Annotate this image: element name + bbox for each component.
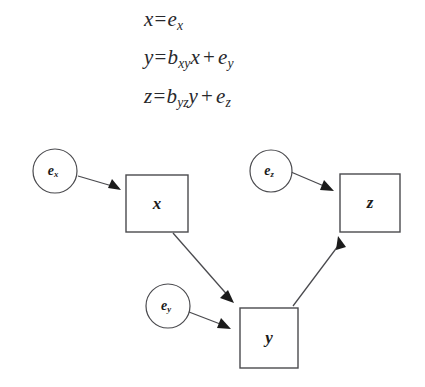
equation-y-coef-multiplier: x bbox=[190, 45, 200, 69]
edge-ez-to-z bbox=[291, 172, 334, 191]
node-z-label: z bbox=[366, 193, 374, 212]
node-error-ex[interactable]: ex bbox=[33, 149, 77, 193]
equation-z-plus: + bbox=[198, 84, 216, 108]
node-z[interactable]: z bbox=[340, 174, 400, 232]
equation-y-operator: = bbox=[154, 45, 168, 69]
equation-z-error-sub: z bbox=[226, 95, 231, 110]
edge-y-to-z bbox=[293, 236, 346, 306]
equation-y-coef-base: b bbox=[168, 45, 179, 69]
edge-ex-to-x bbox=[78, 176, 121, 190]
node-error-ey[interactable]: ey bbox=[146, 284, 190, 328]
equation-x-operator: = bbox=[154, 7, 168, 31]
node-x[interactable]: x bbox=[126, 175, 188, 232]
equation-x-term-sub: x bbox=[177, 18, 183, 33]
equation-y-error-sub: y bbox=[228, 56, 234, 71]
equation-y-lhs: y bbox=[144, 45, 154, 69]
path-diagram: x z y ex ez bbox=[0, 128, 425, 387]
equation-y: y=bxyx+ey bbox=[144, 45, 234, 72]
equation-z: z=byzy+ez bbox=[144, 84, 231, 111]
node-error-ey-sub: y bbox=[166, 304, 171, 314]
equation-z-operator: = bbox=[152, 84, 166, 108]
equations-block: x=ex y=bxyx+ey z=byzy+ez bbox=[0, 0, 425, 128]
equation-y-coef-sub: xy bbox=[178, 56, 190, 71]
equation-x-term-base: e bbox=[168, 7, 178, 31]
equation-y-error-base: e bbox=[218, 45, 228, 69]
node-error-ex-sub: x bbox=[53, 169, 59, 179]
equation-z-coef-multiplier: y bbox=[189, 84, 199, 108]
equation-z-coef-base: b bbox=[166, 84, 177, 108]
figure-canvas: x=ex y=bxyx+ey z=byzy+ez bbox=[0, 0, 425, 387]
node-y-label: y bbox=[263, 328, 273, 347]
equation-z-error-base: e bbox=[216, 84, 226, 108]
equation-z-coef-sub: yz bbox=[177, 95, 188, 110]
node-error-ez-sub: z bbox=[269, 169, 274, 179]
equation-x-lhs: x bbox=[144, 7, 154, 31]
node-error-ez[interactable]: ez bbox=[250, 150, 292, 192]
node-y[interactable]: y bbox=[240, 308, 298, 368]
equation-x: x=ex bbox=[144, 7, 183, 34]
equation-y-plus: + bbox=[200, 45, 218, 69]
node-x-label: x bbox=[152, 194, 162, 213]
edge-ey-to-y bbox=[189, 312, 231, 329]
